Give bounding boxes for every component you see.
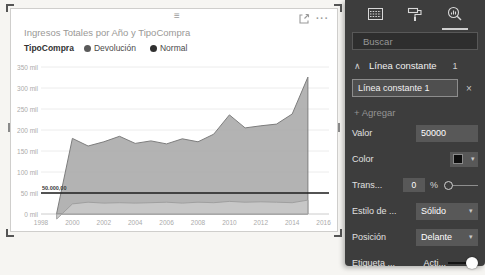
- fields-grid-icon: [367, 6, 384, 22]
- tab-fields[interactable]: [363, 6, 387, 28]
- slider-knob[interactable]: [444, 181, 453, 190]
- y-tick-label: 100 mil: [17, 169, 39, 176]
- estilo-label: Estilo de ...: [352, 206, 416, 216]
- x-tick-label: 2010: [222, 219, 237, 226]
- estilo-value: Sólido: [421, 206, 446, 216]
- transparencia-input[interactable]: 0: [403, 178, 425, 192]
- color-row: Color ▾: [345, 146, 485, 172]
- analytics-pane: ∧ Línea constante 1 Línea constante 1 × …: [345, 0, 485, 266]
- y-tick-label: 200 mil: [17, 127, 39, 134]
- resize-handle-left[interactable]: [8, 123, 10, 132]
- valor-label: Valor: [352, 128, 416, 138]
- analytics-magnifier-icon: [447, 6, 463, 22]
- selection-corner-top-right[interactable]: [334, 4, 342, 12]
- x-tick-label: 2012: [254, 219, 269, 226]
- posicion-label: Posición: [352, 232, 416, 242]
- x-tick-label: 1998: [34, 219, 49, 226]
- remove-constant-line-icon[interactable]: ×: [466, 83, 472, 94]
- valor-row: Valor 50000: [345, 120, 485, 146]
- area-chart-plot[interactable]: 350 mil300 mil250 mil200 mil150 mil100 m…: [11, 9, 339, 233]
- estilo-row: Estilo de ... Sólido ▾: [345, 198, 485, 224]
- y-tick-label: 0 mil: [24, 211, 38, 218]
- selection-corner-top-left[interactable]: [6, 4, 14, 12]
- chevron-down-icon: ▾: [469, 207, 473, 215]
- y-tick-label: 50 mil: [21, 190, 39, 197]
- constant-line-section-header[interactable]: ∧ Línea constante 1: [345, 50, 485, 77]
- x-tick-label: 2002: [97, 219, 112, 226]
- etiqueta-label: Etiqueta ...: [352, 258, 423, 268]
- x-tick-label: 2004: [128, 219, 143, 226]
- color-swatch: [453, 154, 463, 164]
- constant-line-card[interactable]: Línea constante 1: [352, 79, 458, 97]
- search-input[interactable]: [363, 36, 485, 47]
- y-tick-label: 250 mil: [17, 106, 39, 113]
- selection-corner-bottom-right[interactable]: [334, 229, 342, 237]
- constant-line-card-row: Línea constante 1 ×: [345, 77, 485, 97]
- x-tick-label: 2000: [65, 219, 80, 226]
- area-series-devolución[interactable]: [57, 200, 308, 219]
- percent-sign: %: [430, 180, 438, 190]
- section-count: 1: [453, 61, 458, 71]
- tab-format[interactable]: [403, 6, 427, 28]
- paint-roller-icon: [407, 6, 423, 22]
- tab-analytics[interactable]: [443, 6, 467, 28]
- collapse-chevron-icon[interactable]: ∧: [354, 61, 361, 71]
- search-box[interactable]: [352, 32, 478, 50]
- etiqueta-row: Etiqueta ... Acti...: [345, 250, 485, 275]
- area-chart-visual[interactable]: ≡ ··· Ingresos Totales por Año y TipoCom…: [10, 8, 338, 232]
- x-tick-label: 2014: [285, 219, 300, 226]
- transparencia-label: Trans...: [352, 180, 403, 190]
- selection-corner-bottom-left[interactable]: [6, 229, 14, 237]
- chevron-down-icon: ▾: [471, 155, 475, 163]
- constant-line-label: 50.000,00: [42, 185, 66, 191]
- section-title: Línea constante: [369, 60, 437, 71]
- transparencia-slider[interactable]: [444, 178, 478, 192]
- transparencia-row: Trans... 0 %: [345, 172, 485, 198]
- estilo-dropdown[interactable]: Sólido ▾: [416, 203, 478, 220]
- x-tick-label: 2006: [159, 219, 174, 226]
- x-tick-label: 2016: [316, 219, 331, 226]
- pane-tabs: [345, 0, 485, 28]
- y-tick-label: 350 mil: [17, 64, 39, 71]
- slider-track: [452, 185, 478, 186]
- posicion-value: Delante: [421, 232, 452, 242]
- y-tick-label: 300 mil: [17, 85, 39, 92]
- color-picker[interactable]: ▾: [450, 152, 478, 167]
- x-tick-label: 2008: [191, 219, 206, 226]
- page: ≡ ··· Ingresos Totales por Año y TipoCom…: [0, 0, 485, 275]
- etiqueta-state-label: Acti...: [423, 258, 446, 268]
- y-tick-label: 150 mil: [17, 148, 39, 155]
- valor-input[interactable]: 50000: [416, 125, 478, 142]
- posicion-row: Posición Delante ▾: [345, 224, 485, 250]
- resize-handle-right[interactable]: [338, 123, 340, 132]
- etiqueta-toggle[interactable]: [448, 257, 478, 270]
- toggle-knob[interactable]: [466, 257, 478, 269]
- chevron-down-icon: ▾: [469, 233, 473, 241]
- add-line-button[interactable]: + Agregar: [345, 97, 485, 120]
- color-label: Color: [352, 154, 450, 164]
- posicion-dropdown[interactable]: Delante ▾: [416, 229, 478, 246]
